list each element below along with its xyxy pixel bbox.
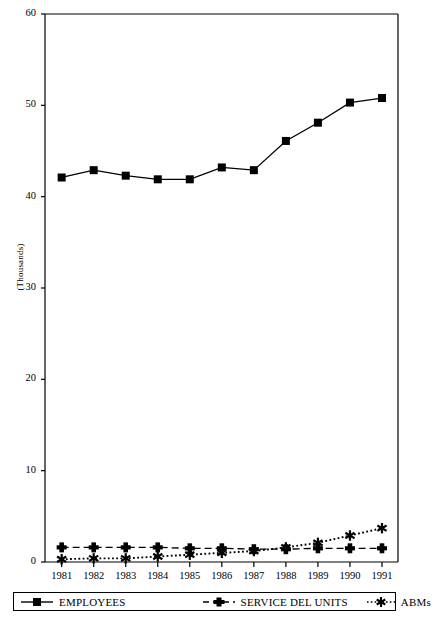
data-series-layer [57, 94, 387, 564]
series-employees [58, 94, 386, 183]
data-point-plus [121, 545, 131, 549]
data-point-plus [153, 545, 163, 549]
data-point-plus [345, 546, 355, 550]
data-point-square [186, 175, 194, 183]
chart-legend: EMPLOYEES SERVICE DEL UNITS [13, 592, 396, 611]
data-point-plus [89, 545, 99, 549]
data-point-square [250, 166, 258, 174]
data-point-square [314, 119, 322, 127]
data-point-square [282, 137, 290, 145]
data-point-square [218, 163, 226, 171]
legend-label-service-del-units: SERVICE DEL UNITS [241, 596, 348, 608]
legend-item-abms: ABMs [362, 596, 435, 608]
data-point-square [58, 173, 66, 181]
legend-asterisk-dotted-line-icon [366, 596, 396, 608]
axes-lines [41, 14, 398, 567]
data-point-square [122, 172, 130, 180]
data-point-square [378, 94, 386, 102]
legend-item-service-del-units: SERVICE DEL UNITS [140, 596, 362, 608]
legend-square-solid-line-icon [20, 596, 54, 608]
data-point-square [154, 175, 162, 183]
data-point-asterisk [57, 554, 66, 564]
data-point-square [346, 99, 354, 107]
legend-label-employees: EMPLOYEES [59, 596, 126, 608]
legend-label-abms: ABMs [401, 596, 431, 608]
data-point-square [90, 166, 98, 174]
data-point-plus [377, 546, 387, 550]
data-point-plus [57, 545, 67, 549]
legend-item-employees: EMPLOYEES [20, 596, 140, 608]
legend-plus-dashed-line-icon [202, 596, 236, 608]
